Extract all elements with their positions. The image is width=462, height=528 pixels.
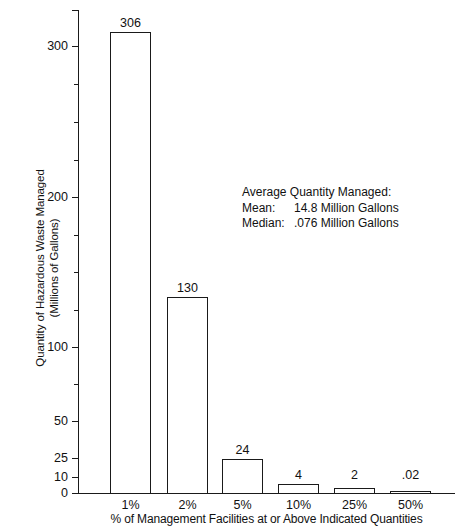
bar-value-10pct: 4 — [273, 469, 324, 482]
y-minor-tick-225 — [74, 160, 79, 161]
y-tick-10 — [72, 477, 79, 478]
y-minor-tick-250 — [74, 122, 79, 123]
x-tick-label-50pct: 50% — [385, 498, 436, 512]
y-minor-tick-275 — [74, 84, 79, 85]
bar-1pct[interactable] — [110, 32, 151, 494]
x-tick-label-2pct: 2% — [162, 498, 213, 512]
bar-value-50pct: .02 — [385, 469, 436, 482]
y-tick-label-10: 10 — [32, 471, 68, 484]
bar-chart: Quantity of Hazardous Waste Managed (Mil… — [0, 0, 462, 528]
y-axis-title-line2: (Millions of Gallons) — [47, 118, 61, 418]
y-axis-top-cap — [72, 10, 79, 11]
annotation-mean-value: 14.8 Million Gallons — [294, 201, 399, 215]
bar-5pct[interactable] — [222, 459, 263, 494]
y-tick-label-100: 100 — [32, 341, 68, 354]
y-minor-tick-150 — [74, 272, 79, 273]
x-tick-label-1pct: 1% — [105, 498, 156, 512]
y-minor-tick-125 — [74, 310, 79, 311]
y-tick-200 — [72, 197, 79, 198]
x-tick-label-25pct: 25% — [329, 498, 380, 512]
x-axis-title: % of Management Facilities at or Above I… — [78, 512, 455, 526]
y-tick-label-25: 25 — [32, 452, 68, 465]
x-tick-label-5pct: 5% — [217, 498, 268, 512]
bar-value-2pct: 130 — [162, 282, 213, 295]
bar-2pct[interactable] — [167, 297, 208, 494]
bar-value-25pct: 2 — [329, 469, 380, 482]
bar-value-1pct: 306 — [105, 17, 156, 30]
y-minor-tick-75 — [74, 384, 79, 385]
y-tick-label-0: 0 — [32, 487, 68, 500]
bar-25pct[interactable] — [334, 488, 375, 494]
annotation-heading: Average Quantity Managed: — [242, 185, 399, 201]
y-tick-0 — [72, 493, 79, 494]
annotation-median-value: .076 Million Gallons — [294, 216, 399, 230]
bar-value-5pct: 24 — [217, 444, 268, 457]
y-tick-label-200: 200 — [32, 191, 68, 204]
y-tick-25 — [72, 458, 79, 459]
annotation-mean-key: Mean: — [242, 201, 294, 217]
y-minor-tick-175 — [74, 235, 79, 236]
y-tick-300 — [72, 46, 79, 47]
y-tick-label-300: 300 — [32, 40, 68, 53]
x-tick-label-10pct: 10% — [273, 498, 324, 512]
y-tick-50 — [72, 421, 79, 422]
y-axis-title: Quantity of Hazardous Waste Managed (Mil… — [33, 118, 61, 418]
annotation-median-key: Median: — [242, 216, 294, 232]
y-tick-label-50: 50 — [32, 415, 68, 428]
bar-10pct[interactable] — [278, 484, 319, 494]
y-tick-100 — [72, 347, 79, 348]
bar-50pct[interactable] — [390, 491, 431, 494]
annotation-row-mean: Mean:14.8 Million Gallons — [242, 201, 399, 217]
annotation-average-quantity: Average Quantity Managed: Mean:14.8 Mill… — [242, 185, 399, 232]
annotation-row-median: Median:.076 Million Gallons — [242, 216, 399, 232]
